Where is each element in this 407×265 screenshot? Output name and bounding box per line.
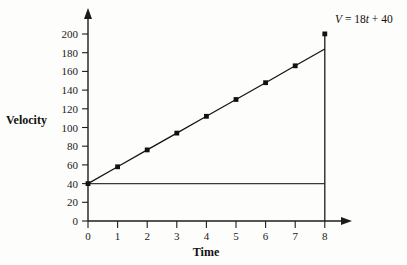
chart-figure: 0 20 40 60 80 100 120 140 160 180 200	[0, 0, 407, 265]
y-tick-label: 80	[67, 140, 79, 152]
data-point	[204, 114, 209, 119]
y-tick-label: 60	[67, 159, 79, 171]
x-axis-title: Time	[193, 245, 220, 259]
x-tick-group: 0 1 2 3 4 5 6 7 8	[85, 221, 328, 242]
velocity-time-plot: 0 20 40 60 80 100 120 140 160 180 200	[0, 0, 407, 265]
data-point	[115, 164, 120, 169]
y-tick-label: 0	[73, 215, 79, 227]
data-point	[86, 181, 91, 186]
y-tick-label: 180	[62, 47, 79, 59]
x-tick-label: 3	[174, 230, 180, 242]
y-axis-arrow-icon	[84, 8, 92, 19]
y-tick-label: 100	[62, 122, 79, 134]
x-tick-label: 8	[322, 230, 328, 242]
data-point	[293, 63, 298, 68]
y-tick-label: 20	[67, 196, 79, 208]
data-point	[263, 80, 268, 85]
x-tick-label: 4	[204, 230, 210, 242]
y-axis-title: Velocity	[6, 113, 47, 127]
y-tick-label: 200	[62, 28, 79, 40]
data-point	[322, 32, 327, 37]
x-tick-label: 6	[263, 230, 269, 242]
y-axis	[84, 8, 92, 221]
x-tick-label: 5	[233, 230, 239, 242]
y-tick-label: 120	[62, 103, 79, 115]
x-tick-label: 2	[144, 230, 150, 242]
x-tick-label: 1	[115, 230, 121, 242]
data-point	[145, 148, 150, 153]
equation-part-eq: = 18	[342, 13, 366, 25]
equation-part-const: + 40	[369, 13, 393, 25]
data-point	[174, 131, 179, 136]
y-tick-group: 0 20 40 60 80 100 120 140 160 180 200	[62, 28, 89, 227]
x-tick-label: 7	[292, 230, 298, 242]
x-axis-arrow-icon	[341, 217, 352, 225]
data-point	[234, 97, 239, 102]
x-tick-label: 0	[85, 230, 91, 242]
equation-label: V = 18t + 40	[335, 13, 393, 25]
x-axis	[88, 217, 352, 225]
data-point-group	[86, 32, 328, 187]
y-tick-label: 160	[62, 65, 79, 77]
y-tick-label: 140	[62, 84, 79, 96]
y-tick-label: 40	[67, 178, 79, 190]
